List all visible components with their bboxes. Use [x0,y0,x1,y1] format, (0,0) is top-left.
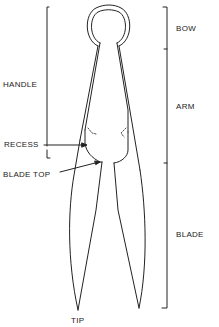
right-bracket [162,7,167,308]
bow-outer [87,5,130,46]
label-tip: TIP [71,316,84,325]
right-spring-mark [121,128,126,137]
shears-diagram [0,0,219,327]
left-blade-outer [70,140,80,310]
label-blade: BLADE [176,230,204,239]
label-blade-top: BLADE TOP [3,170,50,179]
recess-arrow-head [82,143,87,147]
left-arm-inner [85,43,100,130]
recess-shape [85,130,128,163]
label-bow: BOW [176,24,196,33]
right-blade-inner [114,163,139,308]
handle-bracket [47,7,50,158]
left-spring-mark [88,128,96,134]
blade-top-arrow-head [95,161,100,165]
label-arm: ARM [176,102,195,111]
left-arm-outer [80,46,98,140]
right-arm-outer [119,46,140,170]
bow-inner [91,10,125,43]
blade-top-arrow-line [60,162,99,172]
left-blade-inner [78,162,102,310]
label-recess: RECESS [4,140,39,149]
label-handle: HANDLE [3,80,37,89]
right-blade-outer [139,170,145,308]
